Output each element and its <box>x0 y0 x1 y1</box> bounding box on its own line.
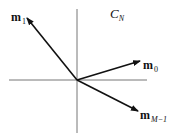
space-label-cn: CN <box>110 5 124 21</box>
vector-label-m-M-minus-1: mM−1 <box>140 106 167 122</box>
vector-m0-arrow <box>77 61 140 80</box>
vector-label-m0: m0 <box>143 56 158 72</box>
vector-m-M-minus-1-arrow <box>77 80 138 111</box>
vector-label-m1: m1 <box>11 8 26 24</box>
vector-m1-arrow <box>27 18 77 80</box>
